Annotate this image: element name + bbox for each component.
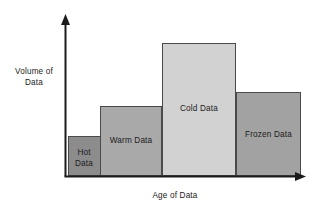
chart-figure: Volume of Data Age of Data Hot Data Warm… <box>0 0 316 213</box>
arrow-up-icon <box>61 14 70 25</box>
bar-label-cold-data: Cold Data <box>162 104 236 115</box>
y-axis-label: Volume of Data <box>6 67 62 88</box>
x-axis-label: Age of Data <box>128 191 222 202</box>
bar-chart-canvas <box>0 0 316 213</box>
bar-label-hot-data: Hot Data <box>68 148 100 169</box>
bar-label-warm-data: Warm Data <box>100 136 162 147</box>
bar-label-frozen-data: Frozen Data <box>236 130 301 141</box>
